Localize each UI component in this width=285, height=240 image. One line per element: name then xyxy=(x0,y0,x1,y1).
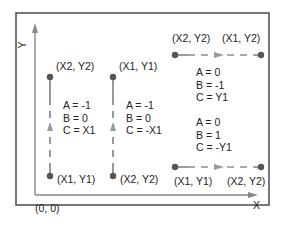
left-segment-eq-b: B = 0 xyxy=(63,112,88,125)
bottom-segment-right-label: (X2, Y2) xyxy=(227,175,265,187)
bottom-segment-eq-a: A = 0 xyxy=(196,116,220,129)
middle-segment-bottom-label: (X2, Y2) xyxy=(120,173,158,185)
top-segment-eq-b: B = -1 xyxy=(196,79,224,92)
point-icon xyxy=(110,173,116,179)
x-axis-arrow-icon xyxy=(248,192,258,198)
segment-left-vertical xyxy=(47,74,53,179)
point-icon xyxy=(258,52,264,58)
y-axis-arrow-icon xyxy=(32,23,38,33)
middle-segment-eq-a: A = -1 xyxy=(126,99,154,112)
top-segment-right-label: (X1, Y2) xyxy=(222,32,260,44)
arrow-up-icon xyxy=(110,122,116,131)
segment-bottom-horizontal xyxy=(172,164,264,170)
top-segment-left-label: (X2, Y2) xyxy=(172,32,210,44)
left-segment-bottom-label: (X1, Y1) xyxy=(57,173,95,185)
left-segment-top-label: (X2, Y2) xyxy=(56,60,94,72)
middle-segment-eq-c: C = -X1 xyxy=(126,124,162,137)
point-icon xyxy=(172,164,178,170)
left-segment-eq-c: C = X1 xyxy=(63,124,95,137)
y-axis-label: Y xyxy=(16,41,28,48)
point-icon xyxy=(258,164,264,170)
middle-segment-top-label: (X1, Y1) xyxy=(119,60,157,72)
segment-top-horizontal xyxy=(172,52,264,58)
arrow-right-icon xyxy=(214,164,224,170)
arrow-up-icon xyxy=(47,122,53,131)
left-segment-eq-a: A = -1 xyxy=(63,99,91,112)
bottom-segment-eq-b: B = 1 xyxy=(196,129,221,142)
top-segment-eq-c: C = Y1 xyxy=(196,91,228,104)
top-segment-eq-a: A = 0 xyxy=(196,66,220,79)
point-icon xyxy=(110,74,116,80)
x-axis-label: X xyxy=(253,199,260,211)
middle-segment-eq-b: B = 0 xyxy=(126,112,151,125)
point-icon xyxy=(172,52,178,58)
bottom-segment-eq-c: C = -Y1 xyxy=(196,141,232,154)
point-icon xyxy=(47,74,53,80)
segment-middle-vertical xyxy=(110,74,116,179)
point-icon xyxy=(47,173,53,179)
bottom-segment-left-label: (X1, Y1) xyxy=(174,175,212,187)
origin-label: (0, 0) xyxy=(35,202,60,214)
arrow-right-icon xyxy=(214,52,224,58)
